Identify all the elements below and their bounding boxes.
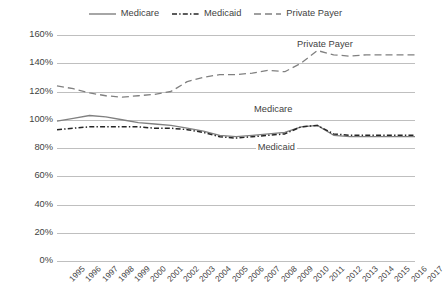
x-axis-tick-label: 2016 (410, 265, 429, 284)
y-axis-tick-label: 40% (3, 200, 53, 209)
x-axis-tick-label: 2012 (345, 265, 364, 284)
series-line-medicare (57, 116, 415, 137)
gridline (57, 261, 415, 262)
x-axis-tick-label: 2009 (296, 265, 315, 284)
series-annotation-medicare: Medicare (252, 105, 294, 115)
y-axis-tick-label: 20% (3, 228, 53, 237)
x-axis-tick-label: 2001 (166, 265, 185, 284)
x-axis-tick-label: 1996 (85, 265, 104, 284)
x-axis-tick-label: 2008 (280, 265, 299, 284)
chart-legend: MedicareMedicaidPrivate Payer (0, 9, 431, 18)
legend-key-dash-dot (172, 10, 199, 18)
y-axis-tick-label: 0% (3, 256, 53, 265)
series-line-private-payer (57, 51, 415, 98)
y-axis-tick-label: 140% (3, 58, 53, 67)
plot-area: Private PayerMedicareMedicaid (57, 35, 415, 261)
x-axis-tick-label: 2000 (150, 265, 169, 284)
legend-key-dashed (254, 10, 281, 18)
legend-label: Private Payer (286, 9, 342, 18)
x-axis-tick-label: 1995 (68, 265, 87, 284)
x-axis-tick-label: 2003 (199, 265, 218, 284)
y-axis-tick-label: 120% (3, 87, 53, 96)
x-axis-tick-label: 2015 (394, 265, 413, 284)
y-axis-tick-label: 60% (3, 171, 53, 180)
x-axis-tick-label: 2007 (264, 265, 283, 284)
x-axis-tick-label: 1998 (117, 265, 136, 284)
legend-label: Medicare (121, 9, 159, 18)
x-axis-tick-label: 2002 (182, 265, 201, 284)
x-axis-tick-label: 2014 (378, 265, 397, 284)
legend-label: Medicaid (204, 9, 241, 18)
legend-item-private-payer[interactable]: Private Payer (254, 9, 342, 18)
series-annotation-medicaid: Medicaid (256, 143, 297, 153)
x-axis-tick-label: 2013 (361, 265, 380, 284)
x-axis-tick-label: 2017 (426, 265, 445, 284)
y-axis-tick-label: 80% (3, 143, 53, 152)
series-annotation-private-payer: Private Payer (295, 40, 355, 50)
x-axis-tick-label: 1997 (101, 265, 120, 284)
x-axis-tick-label: 1999 (133, 265, 152, 284)
y-axis-tick-label: 100% (3, 115, 53, 124)
legend-key-solid (89, 10, 116, 18)
x-axis-tick-label: 2004 (215, 265, 234, 284)
x-axis-tick-label: 2011 (329, 265, 347, 283)
series-layer (57, 35, 415, 261)
x-axis-tick-label: 2006 (247, 265, 266, 284)
y-axis-tick-label: 160% (3, 30, 53, 39)
legend-item-medicaid[interactable]: Medicaid (172, 9, 241, 18)
legend-item-medicare[interactable]: Medicare (89, 9, 159, 18)
x-axis-tick-label: 2005 (231, 265, 250, 284)
